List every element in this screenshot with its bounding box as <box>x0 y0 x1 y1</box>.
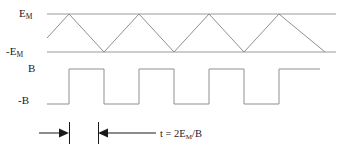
label-period-equation: t = 2EM/B <box>160 129 202 140</box>
waveform-figure: EM -EM B -B t = 2EM/B <box>0 0 351 152</box>
triangular-wave <box>47 14 325 52</box>
label-neg-e-max-subscript: M <box>16 50 23 59</box>
label-period-prefix: t = 2E <box>160 128 186 139</box>
label-period-suffix: /B <box>192 128 202 139</box>
square-wave <box>47 69 320 104</box>
label-neg-e-max: -EM <box>6 46 23 57</box>
left-arrowhead-icon <box>98 129 108 138</box>
label-neg-b: -B <box>18 95 29 106</box>
label-b: B <box>28 63 35 74</box>
right-arrowhead-icon <box>59 129 69 138</box>
label-e-max: EM <box>19 8 32 19</box>
label-e-max-text: E <box>19 7 26 19</box>
label-period-subscript: M <box>186 133 192 141</box>
label-e-max-subscript: M <box>26 12 33 21</box>
label-neg-e-max-text: -E <box>6 45 16 57</box>
